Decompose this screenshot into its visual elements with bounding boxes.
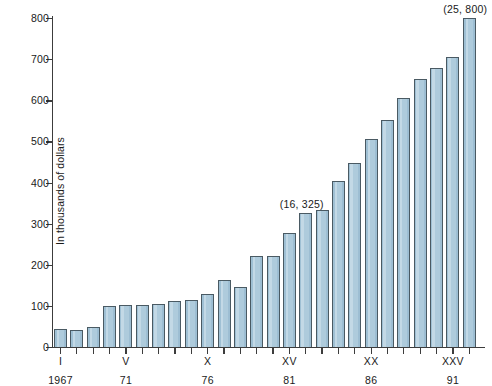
x-tick-mark (354, 348, 355, 354)
x-axis-label: XV81 (282, 355, 297, 386)
x-label-year: 76 (202, 374, 214, 386)
x-tick-mark (403, 348, 404, 354)
x-tick-mark (321, 348, 322, 354)
x-label-year: 1967 (48, 374, 73, 386)
x-tick-mark (191, 348, 192, 354)
x-label-roman: XX (364, 355, 379, 367)
y-tick-label: 0 (43, 341, 49, 353)
x-label-roman: I (48, 355, 73, 367)
x-label-roman: XV (282, 355, 297, 367)
bar (185, 300, 198, 347)
x-axis-label: X76 (202, 355, 214, 386)
x-tick-mark (109, 348, 110, 354)
x-tick-mark (125, 348, 126, 354)
x-tick-mark (240, 348, 241, 354)
x-tick-mark (174, 348, 175, 354)
x-label-year: 71 (120, 374, 132, 386)
x-tick-mark (207, 348, 208, 354)
bar (218, 280, 231, 347)
y-tick-label: 700 (31, 53, 49, 65)
bar (348, 163, 361, 347)
x-tick-mark (469, 348, 470, 354)
bar (234, 287, 247, 347)
x-tick-mark (272, 348, 273, 354)
bar (250, 256, 263, 347)
x-label-year: 91 (442, 374, 464, 386)
bar (430, 68, 443, 347)
x-label-roman: XXV (442, 355, 464, 367)
x-tick-mark (60, 348, 61, 354)
x-tick-mark (338, 348, 339, 354)
x-tick-mark (420, 348, 421, 354)
x-tick-mark (305, 348, 306, 354)
bar (365, 139, 378, 347)
x-axis-label: XX86 (364, 355, 379, 386)
y-tick-label: 200 (31, 259, 49, 271)
bar (316, 210, 329, 347)
x-tick-mark (452, 348, 453, 354)
plot-area (53, 18, 485, 347)
x-tick-mark (436, 348, 437, 354)
x-tick-mark (223, 348, 224, 354)
x-tick-mark (289, 348, 290, 354)
bar (168, 301, 181, 347)
x-tick-mark (158, 348, 159, 354)
x-tick-mark (142, 348, 143, 354)
x-label-year: 86 (364, 374, 379, 386)
bar (103, 306, 116, 347)
bar (70, 330, 83, 347)
x-tick-mark (76, 348, 77, 354)
x-tick-mark (371, 348, 372, 354)
bar (201, 294, 214, 347)
bar (446, 57, 459, 347)
y-tick-label: 300 (31, 218, 49, 230)
x-axis-label: V71 (120, 355, 132, 386)
x-tick-mark (93, 348, 94, 354)
bar (283, 233, 296, 347)
data-point-annotation: (25, 800) (443, 3, 487, 15)
bar (414, 79, 427, 347)
y-tick-label: 500 (31, 135, 49, 147)
bar (136, 305, 149, 347)
bar (152, 304, 165, 347)
y-tick-label: 100 (31, 300, 49, 312)
y-tick-label: 400 (31, 177, 49, 189)
x-axis-label: XXV91 (442, 355, 464, 386)
bar (381, 120, 394, 347)
bar (54, 329, 67, 347)
x-tick-mark (256, 348, 257, 354)
bar (332, 181, 345, 347)
y-tick-label: 600 (31, 94, 49, 106)
bar (299, 213, 312, 347)
x-label-roman: V (120, 355, 132, 367)
data-point-annotation: (16, 325) (280, 198, 324, 210)
bar (397, 98, 410, 347)
bar (119, 305, 132, 347)
x-label-roman: X (202, 355, 214, 367)
x-tick-mark (387, 348, 388, 354)
x-label-year: 81 (282, 374, 297, 386)
bar (463, 18, 476, 347)
y-tick-label: 800 (31, 12, 49, 24)
bar (267, 256, 280, 347)
x-axis-label: I1967 (48, 355, 73, 386)
bar (87, 327, 100, 347)
